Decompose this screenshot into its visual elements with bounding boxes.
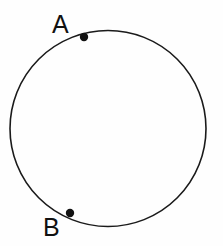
point-label-a: A xyxy=(52,12,69,37)
circle-diagram-svg xyxy=(0,0,223,246)
point-marker-b[interactable] xyxy=(66,209,74,217)
point-label-b: B xyxy=(43,215,60,240)
point-marker-a[interactable] xyxy=(80,33,88,41)
circle-outline xyxy=(10,31,206,227)
figure-canvas: A B xyxy=(0,0,223,246)
